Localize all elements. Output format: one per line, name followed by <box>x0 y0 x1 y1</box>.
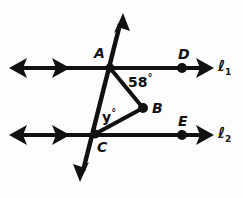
angle-at-c-value: y <box>102 109 111 125</box>
angle-at-a-degree-icon: ° <box>147 72 152 83</box>
point-a-marker <box>106 64 115 73</box>
point-c-marker <box>91 130 100 139</box>
line-l2-subscript: 2 <box>225 134 231 144</box>
point-b-label: B <box>152 101 163 115</box>
point-d-marker <box>177 63 187 73</box>
geometry-canvas <box>0 0 243 198</box>
geometry-diagram: A B C D E 58° y° ℓ1 ℓ2 <box>0 0 243 198</box>
angle-at-c-label: y° <box>102 108 116 124</box>
line-l1-label: ℓ1 <box>218 59 231 77</box>
point-e-marker <box>177 130 187 140</box>
line-l1-subscript: 1 <box>225 67 231 77</box>
transversal-top-arrowhead <box>114 13 130 33</box>
point-b-marker <box>138 103 148 113</box>
angle-at-a-value: 58 <box>128 74 147 90</box>
point-d-label: D <box>178 47 190 61</box>
point-a-label: A <box>94 46 105 60</box>
angle-at-a-label: 58° <box>128 73 152 89</box>
point-e-label: E <box>178 114 188 128</box>
point-c-label: C <box>97 140 107 154</box>
transversal-bottom-arrowhead <box>73 162 89 182</box>
angle-at-c-degree-icon: ° <box>111 107 116 118</box>
line-l2-label: ℓ2 <box>218 126 231 144</box>
